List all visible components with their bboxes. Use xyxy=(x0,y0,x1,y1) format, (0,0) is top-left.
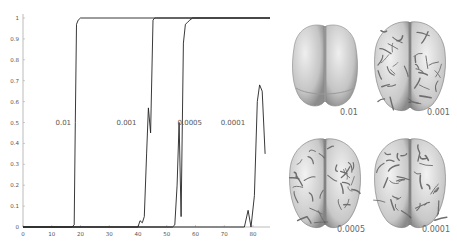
y-tick-label: 0.3 xyxy=(10,161,19,167)
x-tick-label: 70 xyxy=(221,231,228,237)
x-tick-label: 10 xyxy=(48,231,55,237)
series-label: 0.001 xyxy=(116,119,136,127)
x-tick-label: 40 xyxy=(135,231,142,237)
brain-label: 0.0001 xyxy=(422,225,450,234)
brain-render-2: 0.0005 xyxy=(280,125,370,237)
x-tick-label: 80 xyxy=(250,231,257,237)
x-tick-label: 20 xyxy=(77,231,84,237)
y-tick-label: 0.6 xyxy=(10,99,19,105)
brain-render-1: 0.001 xyxy=(365,8,455,120)
series-label: 0.0005 xyxy=(178,119,203,127)
series-label: 0.01 xyxy=(55,119,71,127)
series-label: 0.0001 xyxy=(221,119,246,127)
line-chart: 0102030405060708000.10.20.30.40.50.60.70… xyxy=(0,0,270,247)
smooth-brain-icon xyxy=(280,8,370,120)
x-tick-label: 30 xyxy=(106,231,113,237)
x-tick-label: 60 xyxy=(192,231,199,237)
y-tick-label: 0 xyxy=(16,224,20,230)
folded-brain-icon xyxy=(365,125,455,237)
y-tick-label: 0.4 xyxy=(10,140,19,146)
series-line xyxy=(23,85,265,227)
x-tick-label: 50 xyxy=(163,231,170,237)
y-tick-label: 0.9 xyxy=(10,36,19,42)
y-tick-label: 0.8 xyxy=(10,57,19,63)
folded-brain-icon xyxy=(280,125,370,237)
y-tick-label: 0.1 xyxy=(10,203,19,209)
y-tick-label: 1 xyxy=(16,15,20,21)
y-tick-label: 0.2 xyxy=(10,182,19,188)
y-tick-label: 0.7 xyxy=(10,78,19,84)
brain-label: 0.01 xyxy=(340,108,358,117)
y-tick-label: 0.5 xyxy=(10,120,19,126)
x-tick-label: 0 xyxy=(21,231,25,237)
folded-brain-icon xyxy=(365,8,455,120)
brain-label: 0.0005 xyxy=(337,225,365,234)
brain-render-0: 0.01 xyxy=(280,8,370,120)
brain-label: 0.001 xyxy=(427,108,450,117)
brain-render-3: 0.0001 xyxy=(365,125,455,237)
